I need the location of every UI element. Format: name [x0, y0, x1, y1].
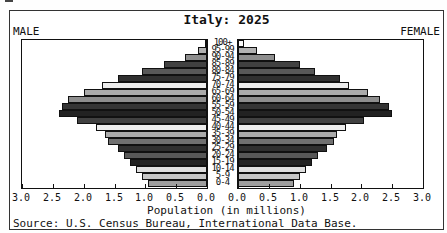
- axis-tickmark: [145, 184, 146, 188]
- female-bar-65-69: [238, 89, 368, 96]
- female-bar-10-14: [238, 166, 306, 173]
- male-bar-85-89: [164, 61, 207, 68]
- female-bar-20-24: [238, 152, 318, 159]
- axis-tick-label-0.5: 0.5: [255, 192, 281, 203]
- female-bar-5-9: [238, 173, 300, 180]
- female-bar-70-74: [238, 82, 349, 89]
- axis-tick-label-2.0: 2.0: [70, 192, 96, 203]
- source-citation: Source: U.S. Census Bureau, Internationa…: [13, 217, 357, 230]
- axis-tick-label-2.5: 2.5: [39, 192, 65, 203]
- axis-tick-label-1.0: 1.0: [286, 192, 312, 203]
- axis-tickmark: [392, 184, 393, 188]
- male-bar-70-74: [102, 82, 207, 89]
- female-bar-75-79: [238, 75, 340, 82]
- chart-title: Italy: 2025: [10, 12, 443, 27]
- male-bar-25-29: [118, 145, 207, 152]
- female-bar-90-94: [238, 54, 275, 61]
- male-bar-20-24: [124, 152, 207, 159]
- axis-tick-label-0.0: 0.0: [193, 192, 219, 203]
- female-bar-100+: [238, 40, 244, 47]
- male-bar-75-79: [118, 75, 207, 82]
- male-bar-60-64: [68, 96, 207, 103]
- age-label-0-4: 0-4: [208, 178, 237, 186]
- population-pyramid-screenshot: Italy: 2025 MALE FEMALE 100+95-9990-9485…: [0, 0, 447, 233]
- male-bar-30-34: [108, 138, 207, 145]
- axis-tick-label-1.5: 1.5: [101, 192, 127, 203]
- male-bar-80-84: [142, 68, 207, 75]
- male-bar-95-99: [198, 47, 207, 54]
- axis-tick-label-2.0: 2.0: [347, 192, 373, 203]
- chart-frame: Italy: 2025 MALE FEMALE 100+95-9990-9485…: [9, 10, 444, 230]
- axis-tickmark: [53, 184, 54, 188]
- x-axis-title: Population (in millions): [10, 204, 443, 217]
- female-bar-25-29: [238, 145, 327, 152]
- axis-tick-label-1.5: 1.5: [317, 192, 343, 203]
- axis-tickmark: [269, 184, 270, 188]
- female-bar-40-44: [238, 124, 346, 131]
- axis-tickmark: [176, 184, 177, 188]
- female-bar-60-64: [238, 96, 380, 103]
- axis-tickmark: [115, 184, 116, 188]
- male-bar-0-4: [148, 180, 207, 187]
- male-bar-55-59: [62, 103, 207, 110]
- page-corner-artifact: [5, 0, 13, 2]
- axis-tick-label-2.5: 2.5: [378, 192, 404, 203]
- axis-tick-label-3.0: 3.0: [8, 192, 34, 203]
- male-side-label: MALE: [13, 25, 40, 38]
- male-bar-35-39: [105, 131, 207, 138]
- female-bar-35-39: [238, 131, 337, 138]
- axis-tickmark: [361, 184, 362, 188]
- female-bar-85-89: [238, 61, 300, 68]
- female-bar-55-59: [238, 103, 389, 110]
- axis-tickmark: [331, 184, 332, 188]
- axis-tickmark: [300, 184, 301, 188]
- female-bar-50-54: [238, 110, 392, 117]
- male-bar-45-49: [77, 117, 207, 124]
- female-bars-panel: [237, 39, 424, 189]
- female-side-label: FEMALE: [400, 25, 440, 38]
- axis-tickmark: [423, 184, 424, 188]
- axis-tickmark: [238, 184, 239, 188]
- male-bar-65-69: [84, 89, 207, 96]
- female-bar-80-84: [238, 68, 315, 75]
- axis-tick-label-1.0: 1.0: [131, 192, 157, 203]
- male-bar-90-94: [185, 54, 207, 61]
- male-bar-100+: [205, 40, 207, 47]
- male-bars-panel: [21, 39, 208, 189]
- axis-tick-label-0.5: 0.5: [162, 192, 188, 203]
- female-bar-30-34: [238, 138, 334, 145]
- male-bar-5-9: [142, 173, 207, 180]
- female-bar-15-19: [238, 159, 312, 166]
- axis-tickmark: [84, 184, 85, 188]
- axis-tickmark: [22, 184, 23, 188]
- male-bar-10-14: [136, 166, 207, 173]
- female-bar-0-4: [238, 180, 294, 187]
- age-group-labels-column: 100+95-9990-9485-8980-8475-7970-7465-696…: [208, 39, 237, 189]
- axis-tick-label-0.0: 0.0: [224, 192, 250, 203]
- male-bar-15-19: [130, 159, 207, 166]
- female-bar-95-99: [238, 47, 257, 54]
- female-bar-45-49: [238, 117, 364, 124]
- axis-tick-label-3.0: 3.0: [409, 192, 435, 203]
- male-bar-50-54: [59, 110, 207, 117]
- male-bar-40-44: [96, 124, 207, 131]
